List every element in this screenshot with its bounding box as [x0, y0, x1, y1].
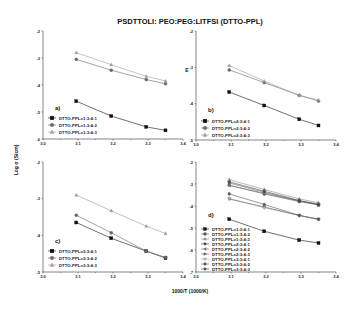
circle-marker-icon [204, 233, 207, 236]
square-marker-icon [263, 230, 266, 233]
series-line [75, 221, 167, 260]
legend-item: DTTO-PPL=2:3:4:3 [201, 133, 250, 138]
y-tick-label: -2 [36, 160, 40, 165]
legend: DTTO-PPL=1:3:4:1DTTO-PPL=1:3:4:2DTTO-PPL… [48, 116, 97, 135]
y-tick-label: -3 [189, 65, 193, 70]
figure: PSDTTOLI: PEO:PEG:LITFSI (DTTO-PPL) Log … [0, 0, 354, 312]
panel-b: 3.03.13.23.33.4-2-3-4-5b)DTTO-PPL=2:3:4:… [189, 29, 339, 148]
square-marker-icon [228, 218, 231, 221]
legend: DTTO-PPL=3:3:4:1DTTO-PPL=3:3:4:2DTTO-PPL… [48, 249, 97, 268]
series-line [228, 68, 320, 102]
panel-c: 3.03.13.23.33.4-2-3-4-5c)DTTO-PPL=3:3:4:… [36, 160, 186, 280]
series-line [228, 180, 321, 206]
x-tick-label: 3.0 [40, 141, 46, 146]
hexagon-marker-icon [263, 203, 266, 206]
triangle-marker-icon [75, 51, 78, 54]
x-tick-label: 3.3 [298, 142, 304, 147]
legend-item: DTTO-PPL=3:3:4:1 [48, 249, 97, 254]
square-marker-icon [75, 221, 78, 224]
hexagon-marker-icon [228, 193, 231, 196]
series-line [75, 51, 167, 82]
y-tick-label: -2 [189, 160, 193, 165]
x-tick-label: 3.1 [228, 274, 234, 279]
series-line [228, 193, 320, 221]
legend-item: DTTO-PPL=1:3:4:1 [48, 116, 97, 121]
square-marker-icon [263, 104, 266, 107]
legend-label: DTTO-PPL=3:3:4:3 [212, 267, 250, 272]
x-tick-label: 3.0 [193, 274, 199, 279]
x-tick-label: 3.4 [333, 142, 339, 147]
x-tick-label: 3.4 [333, 274, 339, 279]
y-tick-label: -5 [189, 226, 193, 231]
circle-marker-icon [145, 78, 148, 81]
diamond-marker-icon [228, 197, 231, 201]
legend-item: DTTO-PPL=3:3:4:3 [201, 267, 250, 272]
y-tick-label: -5 [36, 110, 40, 115]
triangle-marker-icon [75, 193, 78, 196]
legend: DTTO-PPL=2:3:4:1DTTO-PPL=2:3:4:2DTTO-PPL… [201, 119, 250, 138]
x-tick-label: 3.0 [40, 274, 46, 279]
circle-marker-icon [110, 231, 113, 234]
square-marker-icon [75, 100, 78, 103]
square-marker-icon [50, 116, 54, 120]
series-line [228, 198, 320, 221]
y-tick-label: -4 [189, 101, 193, 106]
legend-label: DTTO-PPL=2:3:4:1 [212, 119, 250, 124]
circle-marker-icon [50, 256, 54, 260]
y-tick-label: -3 [36, 196, 40, 201]
legend-label: DTTO-PPL=3:3:4:2 [59, 256, 97, 261]
legend-item: DTTO-PPL=2:3:4:1 [201, 119, 250, 124]
legend-item: DTTO-PPL=3:3:4:2 [48, 256, 97, 261]
x-tick-label: 3.2 [263, 274, 269, 279]
x-tick-label: 3.1 [75, 141, 81, 146]
x-tick-label: 3.0 [193, 142, 199, 147]
circle-marker-icon [228, 68, 231, 71]
square-marker-icon [228, 91, 231, 94]
circle-marker-icon [50, 123, 54, 127]
y-tick-label: -4 [36, 233, 40, 238]
triangle-left-marker-icon [203, 248, 206, 251]
square-marker-icon [145, 125, 148, 128]
triangle-right-marker-icon [204, 253, 207, 256]
x-tick-label: 3.3 [145, 141, 151, 146]
x-tick-label: 3.3 [145, 274, 151, 279]
legend-item: DTTO-PPL=1:3:4:2 [48, 123, 97, 128]
x-tick-label: 3.1 [75, 274, 81, 279]
x-tick-label: 3.2 [110, 141, 116, 146]
circle-marker-icon [75, 58, 78, 61]
y-axis-label: Log σ (S/cm) [13, 144, 19, 175]
chart-title: PSDTTOLI: PEO:PEG:LITFSI (DTTO-PPL) [117, 17, 263, 26]
x-tick-label: 3.3 [298, 274, 304, 279]
legend-label: DTTO-PPL=1:3:4:3 [59, 130, 97, 135]
square-marker-icon [298, 118, 301, 121]
y-tick-label: -4 [189, 204, 193, 209]
x-axis-label: 1000/T (1000/K) [172, 288, 209, 294]
square-marker-icon [203, 119, 207, 123]
series-line [75, 193, 167, 234]
y-tick-label: -2 [36, 29, 40, 34]
square-marker-icon [164, 129, 167, 132]
y-tick-label: -2 [189, 29, 193, 34]
triangle-marker-icon [228, 64, 231, 67]
star-marker-icon [203, 267, 206, 270]
legend-label: DTTO-PPL=1:3:4:1 [59, 116, 97, 121]
y-tick-label: -3 [189, 182, 193, 187]
square-marker-icon [317, 241, 320, 244]
y-tick-label: -3 [36, 56, 40, 61]
y-tick-label: -6 [189, 248, 193, 253]
hexagon-marker-icon [204, 263, 207, 265]
legend-item: DTTO-PPL=1:3:4:3 [48, 130, 97, 135]
panel-tag: d) [208, 212, 214, 218]
legend-item: DTTO-PPL=3:3:4:3 [48, 263, 97, 268]
square-marker-icon [204, 228, 207, 231]
legend-label: DTTO-PPL=1:3:4:2 [59, 123, 97, 128]
series-line [228, 178, 320, 204]
legend: DTTO-PPL=1:3:4:1DTTO-PPL=1:3:4:2DTTO-PPL… [201, 227, 250, 272]
square-marker-icon [110, 237, 113, 240]
circle-marker-icon [110, 69, 113, 72]
legend-label: DTTO-PPL=3:3:4:3 [59, 263, 97, 268]
x-tick-label: 3.1 [228, 142, 234, 147]
circle-marker-icon [164, 82, 167, 85]
circle-marker-icon [75, 214, 78, 217]
panel-tag: b) [208, 107, 214, 113]
